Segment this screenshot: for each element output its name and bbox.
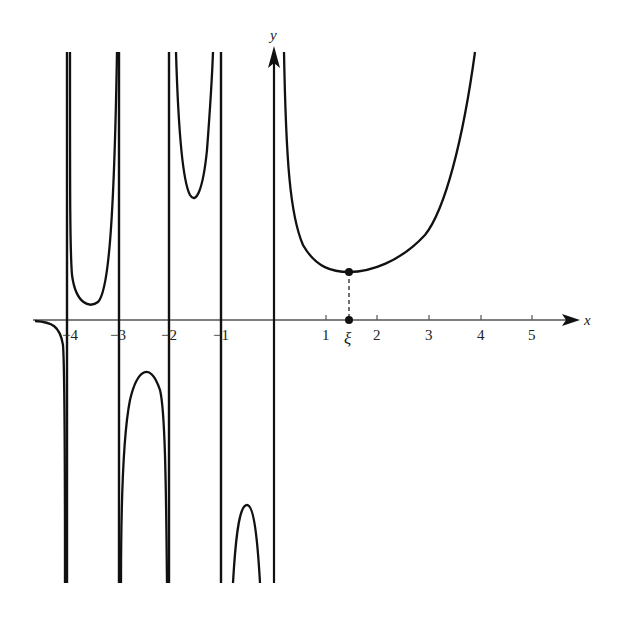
- branch-minus-1-to-0: [233, 505, 260, 583]
- branch-left-of-minus-4: [35, 321, 65, 583]
- tick-label-minus-2: −2: [161, 327, 177, 343]
- gamma-curve: [35, 52, 475, 583]
- tick-label-minus-1: −1: [213, 327, 229, 343]
- branch-minus-4-to-minus-3: [70, 52, 117, 305]
- minimum-point: [345, 268, 353, 276]
- x-tick-labels: −4 −3 −2 −1 1 2 3 4 5: [62, 327, 536, 343]
- y-axis-label: y: [268, 27, 277, 43]
- tick-label-minus-4: −4: [62, 327, 78, 343]
- tick-label-2: 2: [373, 327, 381, 343]
- xi-label: ξ: [344, 329, 352, 348]
- tick-label-1: 1: [322, 327, 330, 343]
- branch-minus-3-to-minus-2: [121, 372, 167, 583]
- tick-label-4: 4: [477, 327, 485, 343]
- branch-minus-2-to-minus-1: [176, 52, 213, 198]
- xi-point: [345, 316, 353, 324]
- tick-label-5: 5: [528, 327, 536, 343]
- asymptotes: [67, 52, 221, 583]
- tick-label-minus-3: −3: [110, 327, 126, 343]
- x-axis-label: x: [583, 312, 591, 328]
- x-ticks: [326, 315, 532, 320]
- gamma-function-plot: x y −4 −3 −2 −1 1 2 3 4 5 ξ: [0, 0, 621, 618]
- branch-positive: [284, 52, 475, 272]
- tick-label-3: 3: [425, 327, 433, 343]
